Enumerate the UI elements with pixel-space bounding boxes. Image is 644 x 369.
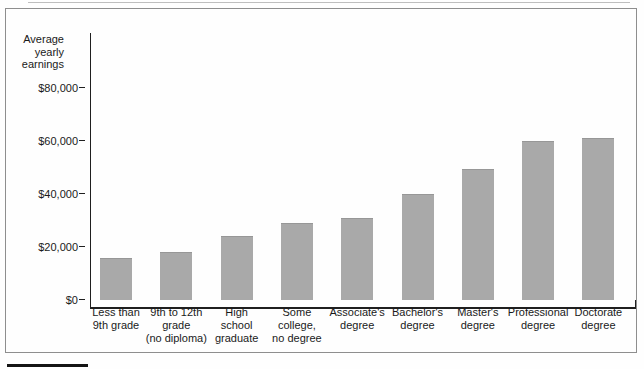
y-axis-title-line: Average	[14, 33, 64, 46]
bar-4	[341, 218, 373, 300]
y-tick-label: $80,000	[18, 81, 78, 95]
y-tick-mark	[79, 193, 85, 195]
x-category-label-line: no degree	[251, 332, 343, 345]
y-tick-label: $60,000	[18, 134, 78, 148]
y-tick-label: $40,000	[18, 187, 78, 201]
bar-8	[582, 138, 614, 300]
bar-0	[100, 258, 132, 300]
y-tick-mark	[79, 299, 85, 301]
y-tick-mark	[79, 246, 85, 248]
y-axis-line	[90, 33, 92, 308]
top-rule-line	[28, 2, 630, 3]
bar-3	[281, 223, 313, 300]
x-category-label-line: Doctorate	[552, 306, 644, 319]
x-category-label-line: degree	[552, 319, 644, 332]
y-axis-title-line: earnings	[14, 58, 64, 71]
page: Average yearly earnings $0$20,000$40,000…	[0, 0, 644, 369]
y-tick-label: $0	[18, 293, 78, 307]
bar-1	[160, 252, 192, 300]
y-tick-mark	[79, 140, 85, 142]
bar-2	[221, 236, 253, 300]
bar-5	[402, 194, 434, 300]
bar-7	[522, 141, 554, 300]
x-category-label-8: Doctoratedegree	[552, 306, 644, 332]
y-tick-label: $20,000	[18, 240, 78, 254]
chart-frame: Average yearly earnings $0$20,000$40,000…	[5, 8, 637, 353]
y-axis-title: Average yearly earnings	[14, 33, 64, 71]
bar-6	[462, 169, 494, 300]
y-tick-mark	[79, 87, 85, 89]
section-divider-rule	[7, 364, 88, 367]
y-axis-title-line: yearly	[14, 46, 64, 59]
